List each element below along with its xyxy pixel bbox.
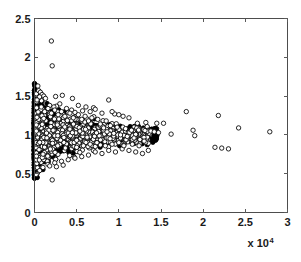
data-point	[47, 164, 51, 168]
data-point	[56, 113, 60, 117]
data-point	[53, 94, 57, 98]
data-point	[52, 117, 56, 121]
x-axis-exponent-label: x 104	[247, 235, 274, 249]
data-point	[94, 131, 98, 135]
data-point	[117, 113, 121, 117]
data-point	[36, 84, 40, 88]
data-point	[130, 142, 134, 146]
x-tick-label: 2	[200, 216, 206, 228]
data-point	[44, 131, 48, 135]
data-point	[40, 122, 44, 126]
data-point	[84, 105, 88, 109]
data-point	[127, 148, 131, 152]
y-tick-label: 0	[24, 207, 30, 219]
data-point	[49, 39, 53, 43]
y-tick-label: 2.5	[15, 13, 30, 25]
x-tick-label: 0.5	[69, 216, 84, 228]
data-point	[125, 134, 129, 138]
data-point	[121, 114, 125, 118]
data-point	[101, 126, 105, 130]
data-point	[191, 128, 195, 132]
x-tick-label: 0	[31, 216, 37, 228]
data-point	[146, 148, 150, 152]
data-point	[76, 103, 80, 107]
data-point	[236, 126, 240, 130]
data-point	[144, 120, 148, 124]
data-point	[60, 93, 64, 97]
figure-canvas: 00.511.522.5300.511.522.5x 104	[0, 0, 301, 262]
data-point	[127, 116, 131, 120]
data-point	[78, 150, 82, 154]
data-point	[65, 118, 69, 122]
data-markers-layer	[32, 39, 272, 182]
data-point	[123, 126, 127, 130]
data-point	[137, 144, 141, 148]
data-point	[39, 105, 43, 109]
data-point	[132, 136, 136, 140]
data-point	[42, 145, 46, 149]
data-point	[55, 123, 59, 127]
data-point	[216, 113, 220, 117]
data-point	[50, 64, 54, 68]
x-tick-label: 1.5	[153, 216, 168, 228]
data-point	[62, 135, 66, 139]
data-point	[50, 141, 54, 145]
data-point	[161, 121, 165, 125]
data-point	[63, 146, 67, 150]
data-point	[86, 119, 90, 123]
scatter-plot: 00.511.522.5300.511.522.5x 104	[0, 0, 301, 262]
data-point	[61, 163, 65, 167]
data-point	[88, 142, 92, 146]
data-point	[140, 151, 144, 155]
y-tick-label: 2	[24, 51, 30, 63]
data-point	[56, 134, 60, 138]
data-point	[100, 111, 104, 115]
data-point	[50, 178, 54, 182]
data-point	[85, 135, 89, 139]
data-point	[67, 153, 71, 157]
data-point	[138, 137, 142, 141]
data-point	[107, 98, 111, 102]
data-point	[93, 150, 97, 154]
data-point	[136, 128, 140, 132]
data-point	[96, 117, 100, 121]
data-point	[41, 152, 45, 156]
data-point	[38, 140, 42, 144]
data-point	[93, 107, 97, 111]
data-point	[152, 130, 156, 134]
data-point	[108, 123, 112, 127]
data-point	[48, 147, 52, 151]
data-point	[184, 109, 188, 113]
data-point	[104, 119, 108, 123]
data-point	[100, 151, 104, 155]
x-tick-label: 1	[116, 216, 122, 228]
data-point	[80, 109, 84, 113]
data-point	[74, 138, 78, 142]
data-point	[42, 116, 46, 120]
data-point	[226, 147, 230, 151]
data-point	[35, 98, 39, 102]
data-point	[74, 145, 78, 149]
data-point	[107, 148, 111, 152]
data-point	[118, 133, 122, 137]
data-point	[49, 111, 53, 115]
data-point	[35, 115, 39, 119]
data-point	[98, 122, 102, 126]
data-point	[70, 96, 74, 100]
data-point	[46, 154, 50, 158]
data-point	[80, 117, 84, 121]
data-point	[88, 109, 92, 113]
data-point	[112, 131, 116, 135]
data-point	[81, 144, 85, 148]
data-point	[115, 125, 119, 129]
data-point	[86, 153, 90, 157]
y-tick-label: 1	[24, 129, 30, 141]
data-point	[71, 116, 75, 120]
data-point	[122, 144, 126, 148]
data-point	[103, 144, 107, 148]
data-point	[169, 132, 173, 136]
data-point	[156, 130, 160, 134]
data-point	[83, 127, 87, 131]
data-point	[63, 125, 67, 129]
data-point	[63, 114, 67, 118]
